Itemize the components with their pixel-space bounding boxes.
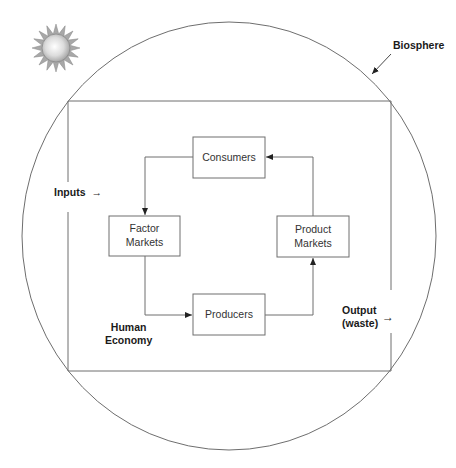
human-economy-label: Human Economy — [105, 321, 152, 347]
economy-line1: Human — [105, 321, 152, 334]
inputs-text: Inputs — [54, 186, 86, 198]
output-line1: Output — [342, 304, 378, 317]
producers-label: Producers — [193, 294, 265, 335]
biosphere-pointer-arrow — [372, 54, 391, 74]
product-markets-label: Product Markets — [277, 216, 349, 257]
arrow-producers-to-product-markets — [265, 258, 313, 315]
factor-markets-label: Factor Markets — [109, 216, 180, 256]
arrow-factor-markets-to-producers — [145, 256, 192, 315]
diagram-canvas — [0, 0, 456, 468]
product-markets-line1: Product — [295, 223, 331, 237]
output-arrow-icon: → — [382, 310, 394, 325]
producers-text: Producers — [205, 308, 253, 322]
factor-markets-line1: Factor — [130, 222, 160, 236]
biosphere-label: Biosphere — [393, 39, 444, 52]
product-markets-line2: Markets — [294, 237, 331, 251]
biosphere-boundary — [22, 22, 436, 450]
inputs-arrow-icon: → — [91, 186, 102, 198]
consumers-label: Consumers — [193, 137, 265, 178]
output-label: Output (waste) — [342, 304, 378, 330]
output-line2: (waste) — [342, 317, 378, 330]
arrow-product-markets-to-consumers — [266, 157, 313, 216]
sun-icon — [32, 24, 80, 72]
economy-line2: Economy — [105, 334, 152, 347]
factor-markets-line2: Markets — [126, 236, 163, 250]
inputs-label: Inputs → — [54, 186, 102, 199]
consumers-text: Consumers — [202, 151, 256, 165]
arrow-consumers-to-factor-markets — [145, 157, 193, 215]
